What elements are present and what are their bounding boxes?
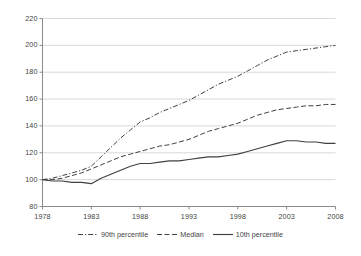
gridlines bbox=[43, 19, 336, 180]
legend-line-swatch-dashdot bbox=[78, 231, 98, 238]
y-tick-label: 100 bbox=[16, 176, 38, 183]
y-tick-label: 160 bbox=[16, 95, 38, 102]
axes bbox=[43, 19, 336, 207]
legend-item-10th-percentile: 10th percentile bbox=[213, 231, 283, 238]
y-tick-label: 200 bbox=[16, 41, 38, 48]
x-tick-label: 2003 bbox=[270, 213, 304, 220]
x-tick-label: 2008 bbox=[319, 213, 353, 220]
y-tick-label: 120 bbox=[16, 149, 38, 156]
x-tick-label: 1993 bbox=[172, 213, 206, 220]
series-line-10th-percentile bbox=[43, 141, 336, 184]
chart-legend: 90th percentileMedian10th percentile bbox=[0, 231, 361, 238]
y-tick-label: 140 bbox=[16, 122, 38, 129]
legend-label: Median bbox=[180, 231, 204, 238]
y-tick-label: 220 bbox=[16, 15, 38, 22]
data-series-group bbox=[43, 45, 336, 183]
y-tick-label: 80 bbox=[16, 203, 38, 210]
x-tick-label: 1978 bbox=[26, 213, 60, 220]
legend-label: 90th percentile bbox=[101, 231, 148, 238]
x-tick-label: 1988 bbox=[123, 213, 157, 220]
legend-line-swatch-dashed bbox=[157, 231, 177, 238]
legend-item-median: Median bbox=[157, 231, 204, 238]
legend-item-90th-percentile: 90th percentile bbox=[78, 231, 148, 238]
legend-line-swatch-solid bbox=[213, 231, 233, 238]
x-tick-label: 1998 bbox=[221, 213, 255, 220]
x-tick-label: 1983 bbox=[74, 213, 108, 220]
line-chart: 80100120140160180200220 1978198319881993… bbox=[0, 0, 361, 256]
y-tick-label: 180 bbox=[16, 68, 38, 75]
legend-label: 10th percentile bbox=[236, 231, 283, 238]
